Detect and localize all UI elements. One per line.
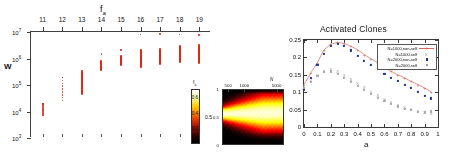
left-x-tick-bottom <box>43 134 44 137</box>
right-x-tick-label: 0.9 <box>420 131 428 137</box>
left-data-outlier <box>140 34 142 36</box>
right-data-point <box>410 87 412 89</box>
right-data-point: + <box>430 89 433 94</box>
left-data-outlier <box>198 34 200 36</box>
left-data-bar <box>159 48 161 66</box>
colorbar-tick-label: 0.4 <box>192 110 198 115</box>
left-data-point <box>62 97 64 99</box>
left-data-point <box>62 91 64 93</box>
right-data-point <box>397 80 399 82</box>
heatmap-y-tick-label: 1 <box>217 87 219 92</box>
right-data-point <box>310 76 312 78</box>
right-data-point <box>390 103 392 105</box>
right-data-point <box>410 109 412 111</box>
right-data-point <box>343 76 345 78</box>
legend-symbol <box>419 57 434 62</box>
right-y-tick-label: 0.1 <box>284 89 301 95</box>
right-data-point <box>390 77 392 79</box>
left-data-outlier <box>159 33 161 35</box>
right-data-point <box>383 73 385 75</box>
left-y-tick <box>27 112 31 113</box>
legend-symbol <box>419 63 434 68</box>
right-data-point <box>383 100 385 102</box>
right-data-point: + <box>416 82 419 87</box>
right-x-tick-label: 0.3 <box>340 131 348 137</box>
right-data-point <box>430 97 432 99</box>
left-x-tick-label: 14 <box>98 16 105 23</box>
left-data-point <box>62 80 64 82</box>
right-data-point: + <box>356 47 359 52</box>
right-data-point <box>350 49 352 51</box>
right-data-point <box>377 97 379 99</box>
left-data-outlier <box>101 53 103 55</box>
right-data-point: + <box>363 52 366 57</box>
left-x-tick <box>199 27 200 31</box>
right-data-point <box>363 60 365 62</box>
legend-item: N=2000,self <box>380 63 434 69</box>
right-data-point <box>350 81 352 83</box>
legend-item: N=2000,non-self <box>380 57 434 63</box>
left-y-tick-label: 104 <box>12 108 21 116</box>
legend-marker-icon: x <box>425 52 428 57</box>
right-y-tick-label: 0 <box>284 124 301 130</box>
left-y-axis-label: W <box>4 62 12 71</box>
right-data-point: + <box>423 86 426 91</box>
right-x-tick-label: 0.6 <box>380 131 388 137</box>
right-data-point: + <box>396 72 399 77</box>
right-data-point <box>323 53 325 55</box>
right-data-point: + <box>403 75 406 80</box>
left-x-tick <box>160 27 161 31</box>
left-data-bar <box>81 71 83 95</box>
right-data-point: + <box>349 44 352 49</box>
right-panel-activated-clones: Activated Clones 0.250.20.150.10.050 00.… <box>268 0 453 160</box>
left-data-point <box>42 115 44 117</box>
left-data-outlier <box>120 49 122 51</box>
right-data-point <box>417 91 419 93</box>
figure-root: fa W 111213141516171819 107106105104103 … <box>0 0 453 160</box>
left-data-outlier <box>42 103 44 105</box>
right-x-tick-label: 0.7 <box>394 131 402 137</box>
left-data-point <box>62 100 64 102</box>
heatmap-y-tick-label: 0.5 <box>213 115 219 120</box>
left-data-bar <box>179 45 181 62</box>
heatmap-x-tick-label: 500 <box>225 83 232 88</box>
left-y-tick-label: 105 <box>12 81 21 89</box>
left-data-bar <box>198 44 200 64</box>
right-data-point: + <box>410 79 413 84</box>
legend-label: N=2000,self <box>396 63 417 68</box>
left-x-tick-bottom <box>82 134 83 137</box>
left-data-outlier <box>62 77 64 79</box>
right-y-tick-label: 0.25 <box>284 37 301 43</box>
right-data-point <box>357 55 359 57</box>
right-data-point <box>310 81 312 83</box>
left-title-subscript: a <box>103 10 106 16</box>
legend-label: N=1000,non-self <box>388 46 417 51</box>
heatmap-x-tick-label: 1000 <box>240 83 250 88</box>
right-data-point <box>323 71 325 73</box>
right-x-tick-label: 0.1 <box>313 131 321 137</box>
left-data-outlier <box>81 70 83 72</box>
right-data-point <box>330 45 332 47</box>
right-data-point <box>316 64 318 66</box>
left-x-tick-label: 11 <box>39 16 46 23</box>
right-data-point <box>357 85 359 87</box>
right-x-tick-label: 0.4 <box>353 131 361 137</box>
left-x-tick <box>62 27 63 31</box>
right-x-tick-label: 0.8 <box>407 131 415 137</box>
right-y-tick-label: 0.15 <box>284 72 301 78</box>
colorbar-tick-label: 0.2 <box>192 126 198 131</box>
heatmap-x-tick <box>244 89 245 92</box>
left-data-bar <box>100 60 102 72</box>
heatmap-y-tick-label: 0 <box>217 143 219 148</box>
left-x-tick-bottom <box>121 134 122 137</box>
right-data-point: + <box>309 71 312 76</box>
right-data-point: + <box>370 56 373 61</box>
left-y-tick <box>27 138 31 139</box>
right-data-point <box>430 110 432 112</box>
right-data-point <box>370 64 372 66</box>
left-y-tick-label: 106 <box>12 55 21 63</box>
legend-marker-icon <box>426 58 428 60</box>
right-data-point <box>316 75 318 77</box>
inset-mid-label: 0.5 <box>205 114 212 120</box>
legend-marker-icon <box>426 64 428 66</box>
